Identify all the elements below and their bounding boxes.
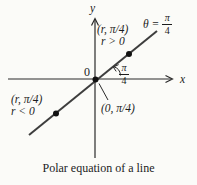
line-equation-lhs: θ = bbox=[143, 18, 159, 30]
positive-point-condition: r > 0 bbox=[101, 35, 125, 47]
angle-numerator: π bbox=[119, 62, 129, 75]
line-equation-denominator: 4 bbox=[165, 25, 170, 37]
y-axis-label: y bbox=[90, 2, 95, 14]
negative-point-coordinates: (r, π/4) bbox=[11, 93, 42, 105]
line-equation-label: θ = π 4 bbox=[143, 12, 172, 36]
origin-point-dot bbox=[93, 77, 99, 83]
positive-point-coordinates: (r, π/4) bbox=[97, 23, 128, 35]
figure-caption: Polar equation of a line bbox=[0, 161, 197, 176]
angle-denominator: 4 bbox=[122, 75, 127, 87]
pole-point-coordinates: (0, π/4) bbox=[101, 102, 135, 114]
line-equation-numerator: π bbox=[162, 12, 172, 25]
negative-r-point-dot bbox=[53, 111, 59, 117]
line-equation-fraction: π 4 bbox=[162, 12, 172, 36]
polar-line bbox=[29, 31, 157, 135]
pole-label-pointer bbox=[99, 84, 108, 101]
polar-line-figure: y x 0 θ = π 4 π 4 (r, π/4) r > 0 (r, π/4… bbox=[0, 0, 197, 185]
angle-fraction-label: π 4 bbox=[119, 62, 129, 86]
positive-r-point-dot bbox=[126, 51, 132, 57]
x-axis-label: x bbox=[180, 73, 185, 85]
origin-label: 0 bbox=[84, 66, 90, 79]
negative-point-condition: r < 0 bbox=[11, 105, 35, 117]
